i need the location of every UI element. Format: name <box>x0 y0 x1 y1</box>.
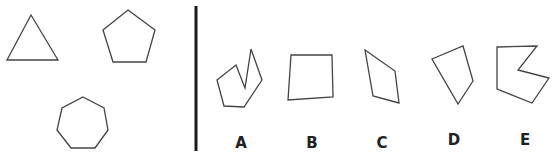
option-a-shape[interactable] <box>217 49 262 107</box>
option-c-shape[interactable] <box>365 50 399 103</box>
polygon-puzzle-figure: A B C D E <box>0 0 555 154</box>
option-a-label[interactable]: A <box>229 134 253 152</box>
option-b-label[interactable]: B <box>300 134 324 152</box>
option-d-label[interactable]: D <box>442 131 466 149</box>
reference-heptagon <box>57 97 108 148</box>
figure-canvas <box>0 0 555 154</box>
reference-pentagon <box>103 10 155 62</box>
option-d-shape[interactable] <box>432 46 473 104</box>
reference-triangle <box>7 15 58 60</box>
option-e-shape[interactable] <box>497 46 549 103</box>
option-b-shape[interactable] <box>288 55 333 100</box>
option-e-label[interactable]: E <box>513 131 537 149</box>
option-c-label[interactable]: C <box>370 134 394 152</box>
